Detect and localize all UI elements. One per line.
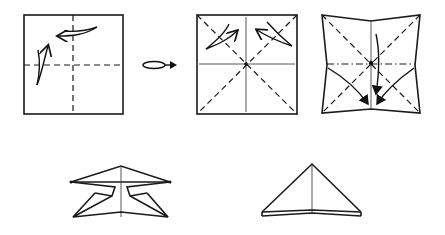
lower-flaps	[71, 182, 170, 217]
triangle-outline	[262, 164, 361, 212]
center-point	[369, 61, 373, 65]
turn-over-icon	[143, 61, 177, 69]
step-4-partial-base	[70, 166, 172, 217]
center-point	[244, 62, 248, 66]
fold-unfold-arrow-icon	[58, 27, 97, 36]
fold-in-arrow-icon	[377, 68, 414, 104]
step-5-waterbomb-base	[262, 164, 361, 216]
step-1-square	[24, 15, 123, 114]
fold-unfold-arrow-icon	[206, 24, 237, 49]
top-flap	[71, 166, 170, 182]
origami-diagram	[0, 0, 445, 235]
step-3-collapse	[322, 15, 420, 113]
bottom-layers	[262, 213, 361, 216]
step-2-square	[197, 15, 297, 114]
